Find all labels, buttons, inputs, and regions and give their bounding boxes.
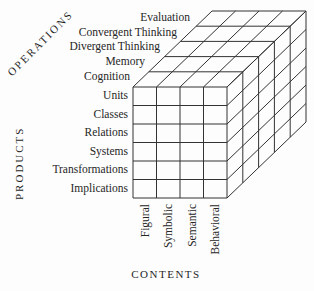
operation-label-evaluation: Evaluation [140,11,190,24]
operation-label-convergent-thinking: Convergent Thinking [79,26,177,39]
products-axis-title: PRODUCTS [13,130,25,200]
product-label-classes: Classes [94,108,129,121]
content-label-figural: Figural [139,204,151,264]
content-label-behavioral: Behavioral [209,204,221,264]
product-label-relations: Relations [85,126,128,139]
contents-axis-title: CONTENTS [106,268,226,280]
content-label-symbolic: Symbolic [162,204,174,264]
product-label-transformations: Transformations [52,163,128,176]
product-label-implications: Implications [71,182,129,195]
product-label-units: Units [103,89,128,102]
soi-cube-diagram: OPERATIONS Evaluation Convergent Thinkin… [0,0,314,291]
operation-label-memory: Memory [105,55,145,68]
operation-label-divergent-thinking: Divergent Thinking [69,40,160,53]
content-label-semantic: Semantic [186,204,198,264]
product-label-systems: Systems [90,145,128,158]
operation-label-cognition: Cognition [84,70,130,83]
